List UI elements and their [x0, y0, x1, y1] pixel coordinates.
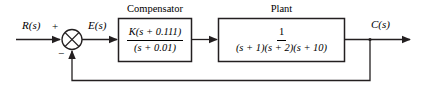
error-signal-label: E(s) — [88, 20, 106, 31]
compensator-denominator: (s + 0.01) — [132, 41, 178, 54]
compensator-transfer-function: K(s + 0.111) (s + 0.01) — [119, 19, 192, 62]
summing-junction-minus-sign: − — [58, 48, 64, 59]
block-diagram: R(s) + − E(s) Compensator K(s + 0.111) (… — [0, 0, 423, 92]
plant-numerator: 1 — [277, 26, 286, 40]
input-signal-label: R(s) — [22, 20, 40, 31]
diagram-canvas — [0, 0, 423, 92]
compensator-numerator: K(s + 0.111) — [127, 26, 184, 40]
summing-junction-plus-sign: + — [52, 21, 58, 32]
output-signal-label: C(s) — [371, 19, 390, 30]
plant-transfer-function: 1 (s + 1)(s + 2)(s + 10) — [219, 19, 345, 62]
plant-denominator: (s + 1)(s + 2)(s + 10) — [234, 41, 329, 54]
plant-block-title: Plant — [218, 4, 345, 15]
compensator-block-title: Compensator — [118, 4, 192, 15]
